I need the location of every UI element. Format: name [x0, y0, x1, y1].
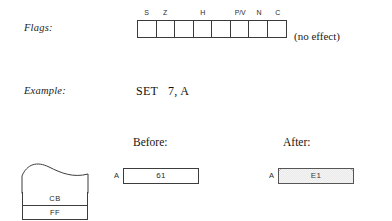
memory-cell: FF — [22, 206, 88, 220]
before-register-box: 61 — [123, 168, 199, 184]
flag-cell-n — [249, 21, 268, 37]
after-register-name: A — [269, 172, 274, 180]
memory-cell: CB — [22, 192, 88, 206]
after-heading: After: — [283, 136, 310, 148]
after-register-box: E1 — [278, 168, 354, 184]
flag-cell-c — [268, 21, 286, 37]
flag-name-c: C — [268, 7, 287, 18]
before-register-value: 61 — [156, 172, 166, 180]
after-register-value: E1 — [311, 172, 322, 180]
torn-edge-icon — [21, 161, 89, 194]
flag-cell-z — [157, 21, 176, 37]
flag-name-x1 — [175, 7, 194, 18]
flag-name-x2 — [212, 7, 231, 18]
before-register-row: A 61 — [114, 168, 199, 184]
instruction-reference-page: Flags: S Z H P/V N C (no effect) Example… — [0, 0, 392, 221]
flags-register-diagram: S Z H P/V N C — [137, 7, 287, 38]
flag-cell-h — [194, 21, 213, 37]
after-register-row: A E1 — [269, 168, 354, 184]
flag-cell-s — [138, 21, 157, 37]
memory-cell-value: FF — [50, 209, 60, 217]
flags-label: Flags: — [24, 22, 53, 33]
before-heading: Before: — [133, 136, 167, 148]
flag-cell-x2 — [212, 21, 231, 37]
example-label: Example: — [24, 85, 66, 96]
before-register-name: A — [114, 172, 119, 180]
flag-cell-x1 — [175, 21, 194, 37]
memory-column-diagram: CB FF — [21, 161, 89, 221]
flag-name-pv: P/V — [231, 7, 250, 18]
flag-name-n: N — [250, 7, 269, 18]
memory-cell-value: CB — [49, 195, 60, 203]
flag-name-s: S — [137, 7, 156, 18]
flag-name-h: H — [193, 7, 212, 18]
flag-name-row: S Z H P/V N C — [137, 7, 287, 18]
flag-cell-pv — [231, 21, 250, 37]
flag-name-z: Z — [156, 7, 175, 18]
flags-effect-note: (no effect) — [294, 30, 340, 42]
flag-cell-row — [137, 20, 287, 38]
example-instruction: SET 7, A — [136, 84, 189, 99]
